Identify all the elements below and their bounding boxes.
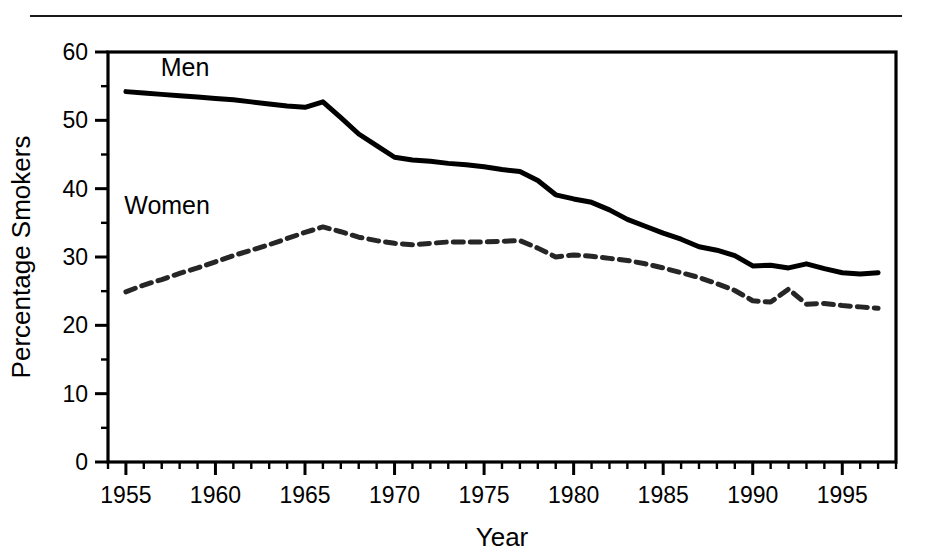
x-tick-label: 1955 bbox=[100, 482, 151, 508]
x-tick-label: 1995 bbox=[817, 482, 868, 508]
series-line-men bbox=[126, 92, 878, 274]
y-tick-label: 50 bbox=[62, 107, 88, 133]
x-tick-label: 1975 bbox=[459, 482, 510, 508]
y-tick-label: 60 bbox=[62, 39, 88, 65]
chart-series-labels: MenWomen bbox=[124, 53, 210, 219]
y-tick-label: 0 bbox=[75, 449, 88, 475]
y-tick-label: 30 bbox=[62, 244, 88, 270]
x-tick-label: 1980 bbox=[548, 482, 599, 508]
y-tick-label: 10 bbox=[62, 381, 88, 407]
x-tick-label: 1990 bbox=[727, 482, 778, 508]
y-tick-label: 20 bbox=[62, 312, 88, 338]
x-tick-label: 1985 bbox=[638, 482, 689, 508]
x-tick-label: 1965 bbox=[279, 482, 330, 508]
y-tick-label: 40 bbox=[62, 176, 88, 202]
x-tick-label: 1970 bbox=[369, 482, 420, 508]
y-axis-title: Percentage Smokers bbox=[6, 136, 36, 379]
line-chart: 1955196019651970197519801985199019950102… bbox=[0, 0, 930, 554]
chart-series bbox=[126, 92, 878, 309]
x-axis-title: Year bbox=[476, 522, 529, 552]
series-label-women: Women bbox=[124, 191, 210, 219]
x-tick-label: 1960 bbox=[190, 482, 241, 508]
series-label-men: Men bbox=[161, 53, 210, 81]
figure-container: 1955196019651970197519801985199019950102… bbox=[0, 0, 930, 554]
